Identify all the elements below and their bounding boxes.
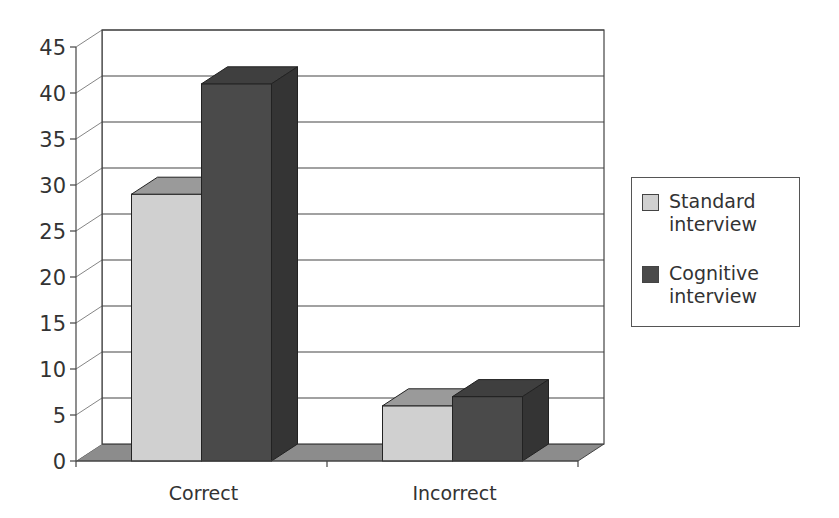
legend-label-cognitive: Cognitive interview (669, 262, 789, 308)
x-category-labels: CorrectIncorrect (169, 482, 497, 504)
legend: Standard interview Cognitive interview (631, 177, 800, 327)
y-tick-label: 45 (39, 36, 66, 60)
bar (453, 380, 549, 461)
y-tick-label: 15 (39, 312, 66, 336)
legend-item-standard: Standard interview (642, 190, 789, 236)
y-tick-label: 20 (39, 266, 66, 290)
y-tick-labels: 051015202530354045 (39, 36, 66, 474)
x-category-label: Incorrect (412, 482, 496, 504)
legend-swatch-standard (642, 194, 659, 211)
y-tick-label: 0 (53, 450, 66, 474)
y-tick-label: 25 (39, 220, 66, 244)
legend-label-standard: Standard interview (669, 190, 789, 236)
legend-swatch-cognitive (642, 266, 659, 283)
legend-item-cognitive: Cognitive interview (642, 262, 789, 308)
bar (202, 67, 298, 461)
y-tick-label: 10 (39, 358, 66, 382)
x-category-label: Correct (169, 482, 238, 504)
y-tick-label: 40 (39, 82, 66, 106)
y-tick-label: 30 (39, 174, 66, 198)
y-tick-label: 5 (53, 404, 66, 428)
y-tick-label: 35 (39, 128, 66, 152)
